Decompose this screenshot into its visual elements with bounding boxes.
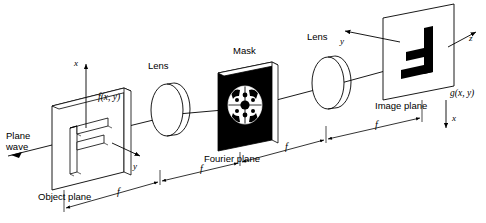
fourier-diffraction-pattern bbox=[228, 86, 262, 124]
object-x-axis-label: x bbox=[74, 58, 78, 68]
focal-length-label-1: f bbox=[117, 186, 120, 197]
output-function-label: g(x, y) bbox=[450, 88, 474, 98]
image-y-axis-label: y bbox=[340, 36, 344, 46]
plane-wave-label-line2: wave bbox=[6, 142, 28, 152]
image-plane-label: Image plane bbox=[375, 101, 427, 111]
focal-length-label-2: f bbox=[200, 163, 203, 174]
fourier-plane-mask bbox=[218, 62, 278, 151]
lens-2-label: Lens bbox=[307, 32, 328, 42]
plane-wave-arrow bbox=[11, 152, 22, 158]
plane-wave-label-line1: Plane bbox=[6, 131, 30, 141]
mask-label: Mask bbox=[233, 46, 256, 56]
lens-2 bbox=[312, 56, 351, 109]
object-y-axis-label: y bbox=[133, 161, 137, 171]
input-function-label: f(x, y) bbox=[98, 92, 120, 102]
image-z-axis-label: z bbox=[469, 33, 473, 43]
object-plane-plate bbox=[52, 88, 131, 190]
image-x-axis-label: x bbox=[452, 113, 456, 123]
fourier-plane-label: Fourier plane bbox=[204, 154, 260, 164]
diagram-canvas bbox=[0, 0, 486, 223]
object-plane-label: Object plane bbox=[38, 192, 91, 202]
focal-length-label-4: f bbox=[375, 119, 378, 130]
optics-diagram-figure: Plane wave Object plane f(x, y) Lens Mas… bbox=[0, 0, 486, 223]
lens-1-label: Lens bbox=[148, 61, 169, 71]
focal-length-label-3: f bbox=[285, 141, 288, 152]
lens-1 bbox=[151, 83, 190, 136]
image-plane bbox=[383, 4, 454, 100]
